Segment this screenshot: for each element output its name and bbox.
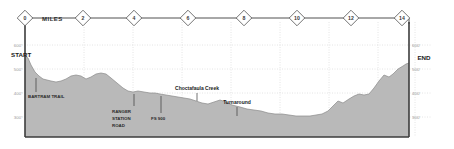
- elevation-profile-figure: MILES 0 2 4 6 8 10 12: [0, 0, 454, 149]
- poi-label-line3: ROAD: [112, 123, 125, 128]
- poi-label-line2: STATION: [112, 116, 131, 121]
- mile-marker-label: 0: [24, 15, 27, 21]
- elev-label-500-left: 500': [14, 67, 22, 72]
- mile-marker-label: 2: [82, 15, 85, 21]
- mile-marker-label: 14: [399, 15, 405, 21]
- elev-label-600-left: 600': [14, 43, 22, 48]
- mile-marker-label: 4: [133, 15, 136, 21]
- miles-axis-title: MILES: [42, 16, 63, 22]
- poi-label-line1: RANGER: [112, 109, 132, 114]
- mile-marker-label: 6: [187, 15, 190, 21]
- elev-label-600-right: 600': [412, 43, 420, 48]
- mile-marker-label: 10: [294, 15, 300, 21]
- elev-label-300-left: 300': [14, 115, 22, 120]
- end-label: END: [417, 54, 431, 61]
- elevation-chart-svg: MILES 0 2 4 6 8 10 12: [0, 0, 454, 149]
- poi-label: Turnaround: [223, 99, 251, 105]
- mile-marker-label: 8: [243, 15, 246, 21]
- elev-label-500-right: 500': [412, 67, 420, 72]
- poi-label: FS 900: [151, 116, 166, 121]
- start-label: START: [11, 51, 31, 58]
- elev-label-400-left: 400': [14, 91, 22, 96]
- elev-label-300-right: 300': [412, 115, 420, 120]
- elev-label-400-right: 400': [412, 91, 420, 96]
- poi-label: BARTRAM TRAIL: [28, 94, 65, 99]
- mile-marker-label: 12: [348, 15, 354, 21]
- poi-label: Choctafaula Creek: [175, 85, 219, 91]
